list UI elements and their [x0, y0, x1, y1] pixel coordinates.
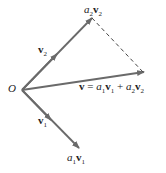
v2-label: v2	[38, 43, 47, 58]
a1v1-label: a1v1	[67, 151, 85, 166]
origin-label: O	[8, 82, 16, 94]
v1-label: v1	[38, 114, 47, 129]
linear-combination-equation: v = a1v1 + a2v2	[79, 80, 144, 95]
v2-vector	[22, 54, 57, 90]
parallelogram-dashed-edge	[92, 18, 143, 72]
a2v2-label: a2v2	[84, 3, 102, 18]
